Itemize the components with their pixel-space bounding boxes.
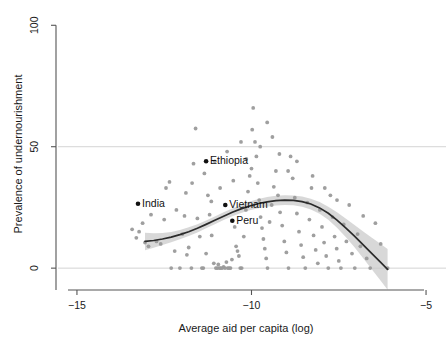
x-axis-title: Average aid per capita (log) — [179, 322, 314, 334]
data-points-group — [130, 106, 389, 270]
scatter-plot-figure: Prevalence of undernourishment Average a… — [0, 0, 446, 346]
x-tick-label: −15 — [68, 299, 86, 311]
point-label-peru: Peru — [236, 214, 258, 226]
y-tick-label: 100 — [28, 17, 40, 35]
y-axis-title: Prevalence of undernourishment — [12, 75, 24, 234]
x-tick-label: −5 — [420, 299, 432, 311]
point-label-india: India — [142, 197, 165, 209]
y-tick-label: 50 — [28, 141, 40, 153]
point-label-vietnam: Vietnam — [229, 198, 267, 210]
point-label-ethiopia: Ethiopia — [210, 154, 248, 166]
y-tick-label: 0 — [28, 265, 40, 271]
plot-canvas — [0, 0, 446, 346]
x-tick-label: −10 — [243, 299, 261, 311]
